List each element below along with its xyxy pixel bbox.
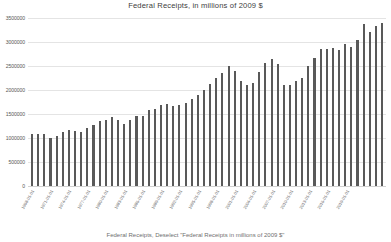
- y-axis-tick-label: 1000000: [6, 135, 25, 141]
- y-axis-tick-label: 1500000: [6, 111, 25, 117]
- bar[interactable]: [375, 26, 377, 186]
- x-axis-tick-label: 1986-01-01: [131, 189, 146, 210]
- bar[interactable]: [74, 131, 76, 186]
- bar[interactable]: [154, 109, 156, 186]
- bar[interactable]: [43, 134, 45, 186]
- x-axis-tick-label: 1992-01-01: [168, 189, 183, 210]
- bar[interactable]: [142, 116, 144, 186]
- x-axis-tick-label: 2001-01-01: [224, 189, 239, 210]
- x-axis-tick-label: 2010-01-01: [280, 189, 295, 210]
- x-axis-tick-label: 1983-01-01: [113, 189, 128, 210]
- chart-figure: Federal Receipts, in millions of 2009 $ …: [0, 0, 391, 242]
- bar[interactable]: [289, 85, 291, 186]
- bar[interactable]: [228, 66, 230, 186]
- x-axis-tick-label: 1989-01-01: [150, 189, 165, 210]
- x-axis-tick-label: 1974-01-01: [57, 189, 72, 210]
- bar[interactable]: [295, 81, 297, 186]
- bar[interactable]: [203, 90, 205, 186]
- x-axis-tick-label: 2016-01-01: [317, 189, 332, 210]
- bar[interactable]: [172, 106, 174, 186]
- bar[interactable]: [117, 120, 119, 186]
- x-axis-tick-label: 1995-01-01: [187, 189, 202, 210]
- bar[interactable]: [307, 66, 309, 186]
- bar[interactable]: [148, 110, 150, 186]
- bar[interactable]: [381, 23, 383, 186]
- bar-series: [28, 18, 386, 186]
- y-axis-tick-label: 3000000: [6, 39, 25, 45]
- bar[interactable]: [234, 71, 236, 186]
- y-axis-tick-label: 500000: [9, 159, 25, 165]
- x-axis-tick-label: 1980-01-01: [94, 189, 109, 210]
- bar[interactable]: [277, 64, 279, 186]
- bar[interactable]: [37, 134, 39, 186]
- bar-slot: [379, 18, 385, 186]
- x-axis-tick-label: 2007-01-01: [261, 189, 276, 210]
- x-axis-tick-labels: 1968-01-011971-01-011974-01-011977-01-01…: [28, 187, 386, 227]
- bar[interactable]: [252, 83, 254, 186]
- bar[interactable]: [86, 128, 88, 186]
- bar[interactable]: [191, 99, 193, 186]
- x-axis-tick-label: 2019-01-01: [335, 189, 350, 210]
- bar[interactable]: [320, 49, 322, 186]
- bar[interactable]: [209, 84, 211, 186]
- bar[interactable]: [240, 81, 242, 186]
- bar[interactable]: [246, 85, 248, 186]
- bar[interactable]: [258, 72, 260, 186]
- bar[interactable]: [49, 138, 51, 186]
- bar[interactable]: [111, 117, 113, 186]
- bar[interactable]: [338, 50, 340, 186]
- bar[interactable]: [160, 105, 162, 186]
- y-axis-tick-label: 2500000: [6, 63, 25, 69]
- figure-caption: Federal Receipts, Deselect "Federal Rece…: [0, 232, 391, 238]
- bar[interactable]: [105, 120, 107, 186]
- x-axis-tick-label: 1968-01-01: [20, 189, 35, 210]
- bar[interactable]: [369, 32, 371, 186]
- bar[interactable]: [313, 58, 315, 186]
- bar[interactable]: [135, 116, 137, 186]
- x-axis-tick-label: 1971-01-01: [39, 189, 54, 210]
- y-axis-tick-label: 3500000: [6, 15, 25, 21]
- bar[interactable]: [215, 78, 217, 186]
- bar[interactable]: [68, 130, 70, 186]
- bar[interactable]: [80, 132, 82, 186]
- bar[interactable]: [99, 121, 101, 186]
- bar[interactable]: [166, 104, 168, 186]
- x-axis-tick-label: 2013-01-01: [298, 189, 313, 210]
- bar[interactable]: [129, 120, 131, 186]
- bar[interactable]: [178, 105, 180, 186]
- bar[interactable]: [332, 48, 334, 186]
- bar[interactable]: [350, 47, 352, 186]
- bar[interactable]: [271, 59, 273, 186]
- bar[interactable]: [326, 49, 328, 186]
- bar[interactable]: [283, 85, 285, 186]
- bar[interactable]: [185, 103, 187, 186]
- bar[interactable]: [56, 136, 58, 186]
- bar[interactable]: [221, 73, 223, 186]
- bar[interactable]: [363, 24, 365, 186]
- y-axis-tick-label: 2000000: [6, 87, 25, 93]
- y-axis-tick-label: 0: [22, 183, 25, 189]
- bar[interactable]: [92, 125, 94, 186]
- bar[interactable]: [123, 124, 125, 186]
- x-axis-tick-label: 2004-01-01: [243, 189, 258, 210]
- bar[interactable]: [264, 63, 266, 186]
- bar[interactable]: [31, 134, 33, 186]
- x-axis-tick-label: 1977-01-01: [76, 189, 91, 210]
- bar[interactable]: [356, 40, 358, 186]
- bar[interactable]: [197, 95, 199, 186]
- bar[interactable]: [301, 78, 303, 186]
- bar[interactable]: [344, 44, 346, 186]
- plot-area: 3500000300000025000002000000150000010000…: [28, 18, 386, 186]
- chart-title: Federal Receipts, in millions of 2009 $: [0, 1, 391, 10]
- x-axis-tick-label: 1998-01-01: [206, 189, 221, 210]
- bar[interactable]: [62, 132, 64, 186]
